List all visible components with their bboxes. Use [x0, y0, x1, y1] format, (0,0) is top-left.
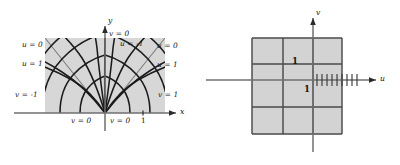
right-panel-w-plane: 1 1 u v	[200, 0, 400, 165]
label-v-equals-0-top: v = 0	[109, 30, 129, 37]
figure-canvas: u = 0 u = 1 v = -1 v = 0 u = -1 u = 0 u …	[0, 0, 400, 165]
label-unit-one-left: 1	[141, 117, 146, 124]
label-u-equals-0-left: u = 0	[22, 41, 43, 48]
shaded-region-right	[252, 38, 342, 134]
label-u-equals-1-right: u = 1	[157, 61, 178, 68]
left-panel-drawing	[0, 0, 200, 165]
label-u-equals-0-right: u = 0	[157, 42, 178, 49]
right-panel-drawing	[200, 0, 400, 165]
label-v-equals-0-bottom-right: v = 0	[110, 117, 130, 124]
label-u-equals-1-left: u = 1	[22, 60, 43, 67]
label-one-below-axis: 1	[304, 85, 310, 94]
left-panel-z-plane: u = 0 u = 1 v = -1 v = 0 u = -1 u = 0 u …	[0, 0, 200, 165]
axis-label-y: y	[108, 17, 112, 25]
axis-label-u: u	[380, 75, 385, 83]
label-v-equals-0-bottom-left: v = 0	[71, 117, 91, 124]
label-u-equals-minus-1-right: u = -1	[120, 40, 143, 47]
label-v-equals-1-right: v = 1	[158, 91, 178, 98]
axis-label-x: x	[180, 108, 184, 116]
label-one-above-axis: 1	[292, 57, 298, 66]
axis-label-v: v	[316, 9, 320, 17]
label-v-equals-minus-1-left: v = -1	[15, 91, 38, 98]
